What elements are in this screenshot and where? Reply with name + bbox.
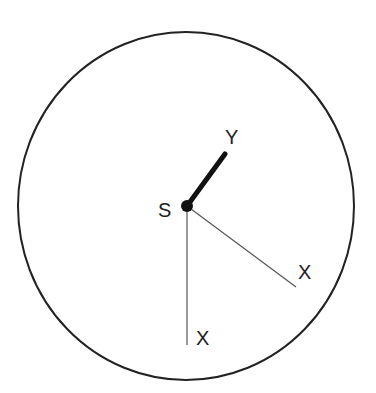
label-thick-arm: Y [225, 127, 238, 147]
label-diagonal-arm: X [298, 262, 311, 282]
label-center: S [158, 200, 171, 220]
thick-arm [187, 154, 225, 206]
center-dot [181, 200, 193, 212]
diagram-canvas [0, 0, 376, 393]
label-vertical-arm: X [196, 328, 209, 348]
diagonal-arm [187, 206, 296, 287]
